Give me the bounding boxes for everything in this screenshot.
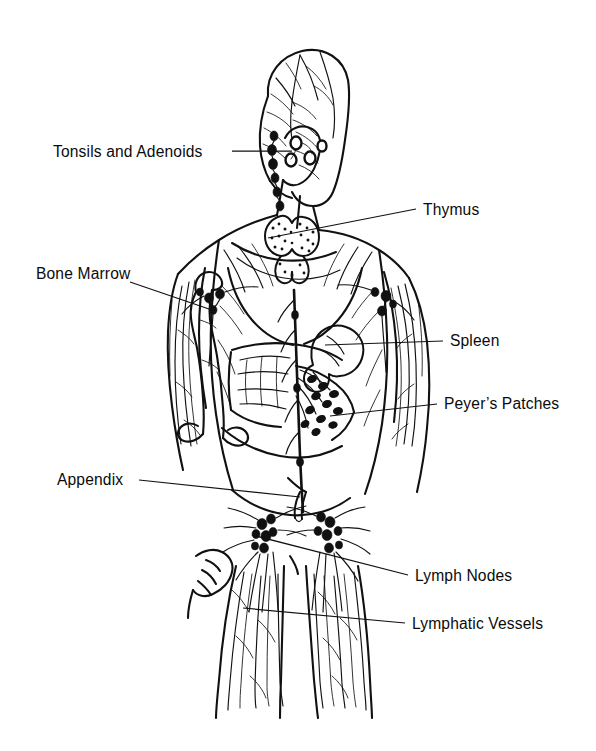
thymus-organ	[265, 216, 319, 283]
leader-lymph-nodes	[252, 535, 408, 575]
figure-canvas: Tonsils and Adenoids Thymus Bone Marrow …	[0, 0, 596, 751]
thoracic-duct	[278, 290, 304, 512]
torso-outline	[168, 215, 430, 515]
hand-at-hip	[188, 550, 233, 618]
leg-vessels-left	[228, 572, 283, 710]
label-bone-marrow: Bone Marrow	[36, 266, 130, 282]
leader-lymphatic-vessels	[243, 608, 405, 623]
label-tonsils-and-adenoids: Tonsils and Adenoids	[53, 144, 203, 160]
label-spleen: Spleen	[450, 333, 499, 349]
leader-appendix	[139, 480, 300, 497]
label-lymphatic-vessels: Lymphatic Vessels	[412, 616, 543, 632]
label-thymus: Thymus	[423, 202, 479, 218]
inguinal-nodes-left	[223, 506, 306, 612]
cervical-node-chain	[268, 131, 285, 211]
lymphatic-system-illustration	[0, 0, 596, 751]
label-lymph-nodes: Lymph Nodes	[415, 568, 512, 584]
label-appendix: Appendix	[57, 472, 123, 488]
arm-vessels-right	[391, 284, 422, 446]
legs-outline	[216, 556, 372, 718]
inguinal-nodes-right	[287, 507, 370, 612]
label-peyers-patches: Peyer’s Patches	[444, 396, 559, 412]
